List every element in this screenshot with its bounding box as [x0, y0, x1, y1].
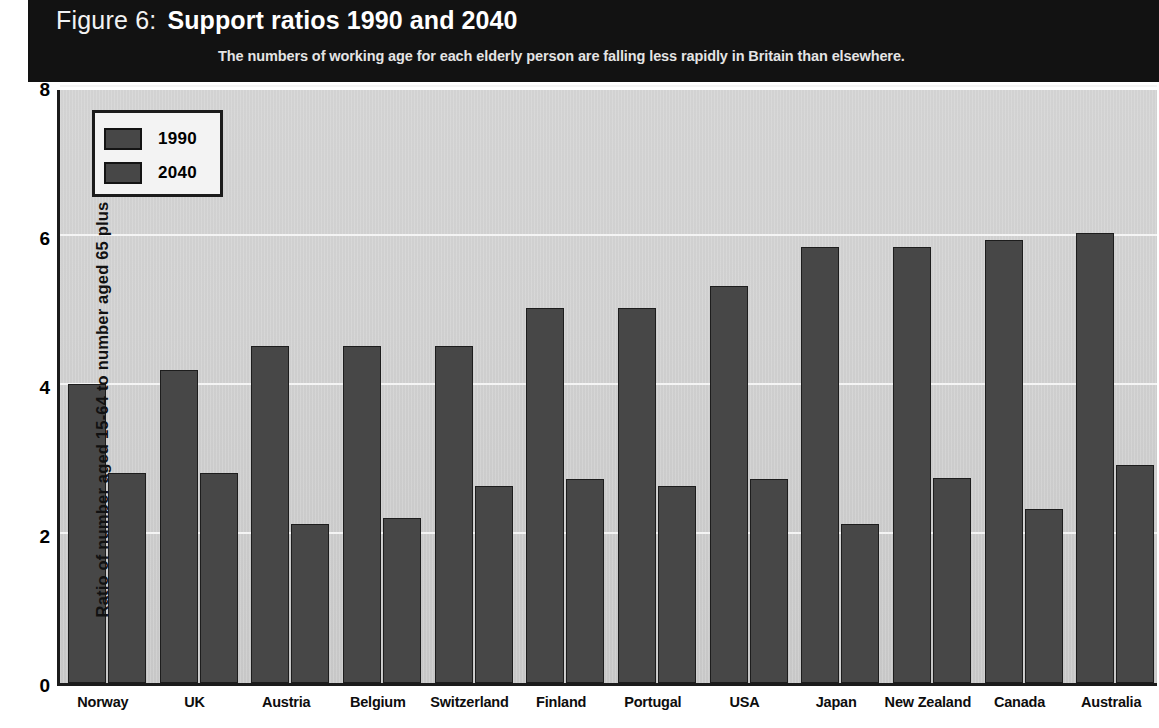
bar-group [526, 90, 604, 683]
title-row: Figure 6: Support ratios 1990 and 2040 [56, 6, 518, 35]
bar-group [618, 90, 696, 683]
x-axis-label: Norway [57, 694, 149, 710]
legend-item-1990: 1990 [104, 122, 220, 156]
y-axis-tick-8: 8 [18, 79, 50, 101]
bar-2040 [1116, 465, 1154, 683]
bar-group [251, 90, 329, 683]
bar-1990 [251, 346, 289, 683]
y-axis-tick-2: 2 [18, 526, 50, 548]
bar-1990 [160, 370, 198, 683]
bar-1990 [985, 240, 1023, 683]
bar-2040 [1025, 509, 1063, 683]
bar-1990 [435, 346, 473, 683]
bar-1990 [801, 247, 839, 683]
plot-area: Ratio of number aged 15-64 to number age… [57, 90, 1157, 686]
bar-group [343, 90, 421, 683]
y-axis-title: Ratio of number aged 15-64 to number age… [93, 110, 112, 710]
y-axis-tick-6: 6 [18, 228, 50, 250]
bars-layer [60, 90, 1157, 683]
figure-chart: Figure 6: Support ratios 1990 and 2040 T… [0, 0, 1159, 728]
figure-number: Figure 6: [56, 6, 156, 35]
bar-group [435, 90, 513, 683]
bar-group [893, 90, 971, 683]
bar-2040 [475, 486, 513, 683]
bar-group [710, 90, 788, 683]
legend-item-2040: 2040 [104, 156, 220, 190]
bar-2040 [658, 486, 696, 683]
bar-1990 [526, 308, 564, 683]
y-axis-tick-4: 4 [18, 377, 50, 399]
bar-2040 [750, 479, 788, 683]
x-axis-label: Finland [515, 694, 607, 710]
x-axis-label: USA [699, 694, 791, 710]
x-axis-label: New Zealand [882, 694, 974, 710]
bar-group [985, 90, 1063, 683]
y-axis-tick-0: 0 [18, 675, 50, 697]
bar-1990 [1076, 233, 1114, 683]
legend-label-1990: 1990 [158, 129, 197, 149]
legend: 1990 2040 [92, 110, 223, 197]
bar-2040 [200, 473, 238, 683]
bar-2040 [291, 524, 329, 683]
legend-swatch-1990 [104, 128, 142, 150]
bar-2040 [108, 473, 146, 683]
header-banner: Figure 6: Support ratios 1990 and 2040 T… [28, 0, 1159, 82]
x-axis-labels: NorwayUKAustriaBelgiumSwitzerlandFinland… [57, 694, 1157, 724]
legend-swatch-2040 [104, 162, 142, 184]
x-axis-label: Belgium [332, 694, 424, 710]
figure-subtitle: The numbers of working age for each elde… [218, 48, 905, 64]
bar-group [801, 90, 879, 683]
bar-2040 [841, 524, 879, 683]
x-axis-label: Canada [974, 694, 1066, 710]
gridline [60, 85, 1157, 87]
left-gutter [0, 0, 28, 82]
legend-label-2040: 2040 [158, 163, 197, 183]
x-axis-label: Portugal [607, 694, 699, 710]
bar-1990 [710, 286, 748, 683]
page-title: Support ratios 1990 and 2040 [167, 6, 517, 35]
bar-2040 [933, 478, 971, 683]
bar-2040 [383, 518, 421, 683]
x-axis-label: Japan [790, 694, 882, 710]
bar-1990 [893, 247, 931, 683]
bar-1990 [343, 346, 381, 683]
bar-1990 [618, 308, 656, 683]
x-axis-label: Australia [1065, 694, 1157, 710]
x-axis-label: Switzerland [424, 694, 516, 710]
bar-2040 [566, 479, 604, 683]
bar-group [1076, 90, 1154, 683]
x-axis-label: UK [149, 694, 241, 710]
x-axis-label: Austria [240, 694, 332, 710]
